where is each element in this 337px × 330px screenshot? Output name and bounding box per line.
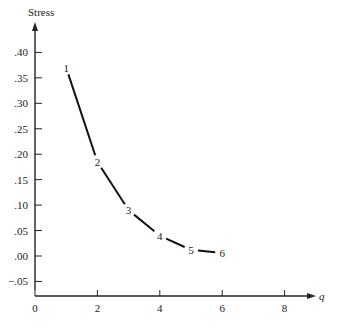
x-tick-label: 2 <box>95 302 101 314</box>
series-segment <box>134 215 154 232</box>
x-axis-ticks: 02468 <box>32 290 288 314</box>
point-label: 4 <box>157 230 163 242</box>
series-segment <box>166 239 184 247</box>
stress-chart: .40.35.30.25.20.15.10.05.00−.05 02468 12… <box>0 0 337 330</box>
y-tick-label: −.05 <box>8 275 28 287</box>
point-label: 5 <box>188 244 194 256</box>
x-tick-label: 6 <box>219 302 225 314</box>
y-tick-label: .20 <box>14 148 28 160</box>
axes <box>32 22 316 299</box>
stress-series: 123456 <box>63 62 225 259</box>
y-axis-title: Stress <box>28 6 54 18</box>
x-tick-label: 4 <box>157 302 163 314</box>
y-tick-label: .15 <box>14 174 28 186</box>
series-segment <box>198 251 215 253</box>
y-tick-label: .10 <box>14 199 28 211</box>
y-tick-label: .30 <box>14 97 28 109</box>
y-axis-ticks: .40.35.30.25.20.15.10.05.00−.05 <box>8 46 42 287</box>
y-tick-label: .35 <box>14 72 28 84</box>
point-label: 2 <box>95 156 101 168</box>
x-axis-title: q <box>319 290 325 302</box>
y-axis-arrow-icon <box>32 22 38 31</box>
x-axis-arrow-icon <box>307 293 316 299</box>
y-tick-label: .00 <box>14 250 28 262</box>
x-tick-label: 8 <box>282 302 288 314</box>
y-tick-label: .25 <box>14 123 28 135</box>
point-label: 1 <box>63 62 69 74</box>
y-tick-label: .40 <box>14 46 28 58</box>
x-tick-label: 0 <box>32 302 38 314</box>
y-tick-label: .05 <box>14 225 28 237</box>
series-segment <box>101 168 125 205</box>
point-label: 3 <box>126 204 132 216</box>
series-segment <box>68 74 95 155</box>
point-label: 6 <box>219 247 225 259</box>
